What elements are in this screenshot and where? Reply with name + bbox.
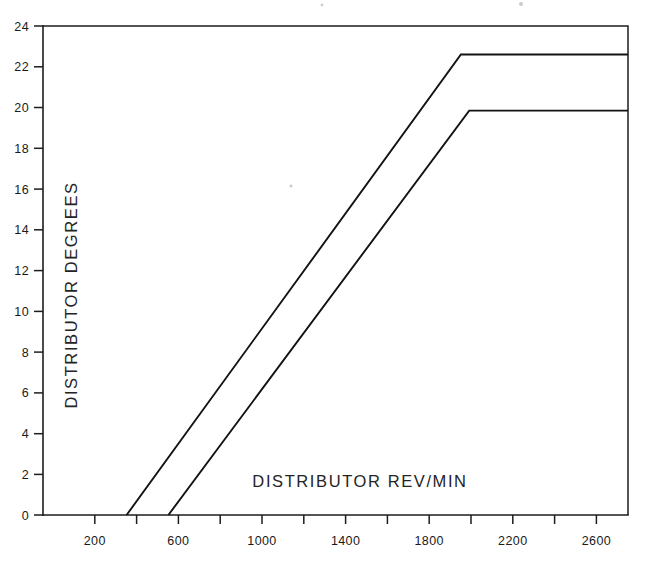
y-tick-label: 4 [22, 427, 29, 441]
distributor-advance-chart: 24 22 20 18 16 14 12 10 8 6 4 2 0 [0, 0, 645, 565]
y-axis-title: DISTRIBUTOR DEGREES [62, 181, 80, 408]
y-axis-tick-labels: 24 22 20 18 16 14 12 10 8 6 4 2 0 [14, 20, 29, 523]
y-tick-label: 10 [14, 305, 29, 319]
y-tick-label: 2 [22, 468, 29, 482]
x-tick-label: 600 [167, 534, 189, 548]
y-tick-label: 6 [22, 386, 29, 400]
scan-speck [519, 2, 523, 6]
x-tick-label: 1800 [414, 534, 443, 548]
x-axis-ticks [95, 515, 597, 524]
y-tick-label: 8 [22, 346, 29, 360]
y-tick-label: 16 [14, 183, 29, 197]
x-tick-label: 1000 [247, 534, 276, 548]
scan-speck [321, 4, 324, 7]
plot-frame [43, 26, 628, 515]
x-axis-tick-labels: 200 600 1000 1400 1800 2200 2600 [84, 534, 611, 548]
x-tick-label: 1400 [331, 534, 360, 548]
chart-container: 24 22 20 18 16 14 12 10 8 6 4 2 0 [0, 0, 645, 565]
x-tick-label: 200 [84, 534, 106, 548]
x-tick-label: 2200 [498, 534, 527, 548]
y-tick-label: 20 [14, 101, 29, 115]
y-tick-label: 0 [22, 509, 29, 523]
y-tick-label: 18 [14, 142, 29, 156]
y-tick-label: 22 [14, 60, 29, 74]
series-line-minimum-advance [168, 111, 628, 515]
y-tick-label: 12 [14, 264, 29, 278]
scan-speck [289, 184, 292, 187]
series-line-maximum-advance [127, 55, 628, 516]
y-tick-label: 14 [14, 223, 29, 237]
y-axis-ticks [34, 26, 43, 515]
x-axis-title: DISTRIBUTOR REV/MIN [252, 472, 467, 490]
x-tick-label: 2600 [582, 534, 611, 548]
y-tick-label: 24 [14, 20, 29, 34]
